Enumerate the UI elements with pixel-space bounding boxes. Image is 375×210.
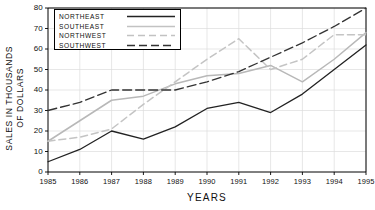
chart-legend: NORTHEAST SOUTHEAST NORTHWEST SOUTHWEST bbox=[54, 9, 181, 50]
x-axis-label: YEARS bbox=[48, 192, 366, 203]
y-axis-label-line-2: OF DOLLARS bbox=[15, 68, 26, 128]
legend-label-southeast: SOUTHEAST bbox=[59, 23, 125, 30]
legend-item-southeast: SOUTHEAST bbox=[59, 22, 176, 31]
legend-item-southwest: SOUTHWEST bbox=[59, 41, 176, 50]
y-axis-label-line-1: SALES IN THOUSANDS bbox=[4, 46, 15, 151]
x-tick-label: 1989 bbox=[160, 177, 190, 186]
legend-item-northwest: NORTHWEST bbox=[59, 31, 176, 40]
x-tick-label: 1986 bbox=[65, 177, 95, 186]
line-chart: SALES IN THOUSANDS OF DOLLARS 0102030405… bbox=[0, 0, 375, 210]
y-tick-label: 0 bbox=[21, 167, 43, 176]
x-tick-label: 1991 bbox=[224, 177, 254, 186]
x-tick-label: 1988 bbox=[128, 177, 158, 186]
legend-swatch-northeast bbox=[125, 12, 176, 21]
legend-label-southwest: SOUTHWEST bbox=[59, 42, 125, 49]
y-tick-label: 20 bbox=[21, 126, 43, 135]
legend-swatch-northwest bbox=[125, 31, 176, 40]
legend-swatch-southwest bbox=[125, 41, 176, 50]
legend-label-northwest: NORTHWEST bbox=[59, 32, 125, 39]
y-tick-label: 60 bbox=[21, 44, 43, 53]
x-tick-label: 1995 bbox=[351, 177, 375, 186]
y-tick-label: 30 bbox=[21, 106, 43, 115]
y-tick-label: 40 bbox=[21, 85, 43, 94]
legend-label-northeast: NORTHEAST bbox=[59, 13, 125, 20]
x-tick-label: 1992 bbox=[256, 177, 286, 186]
legend-item-northeast: NORTHEAST bbox=[59, 12, 176, 21]
x-tick-label: 1993 bbox=[287, 177, 317, 186]
y-tick-label: 80 bbox=[21, 3, 43, 12]
y-tick-label: 10 bbox=[21, 147, 43, 156]
y-tick-label: 70 bbox=[21, 24, 43, 33]
x-tick-label: 1990 bbox=[192, 177, 222, 186]
legend-swatch-southeast bbox=[125, 22, 176, 31]
x-tick-label: 1987 bbox=[97, 177, 127, 186]
x-tick-label: 1985 bbox=[33, 177, 63, 186]
y-tick-label: 50 bbox=[21, 65, 43, 74]
x-tick-label: 1994 bbox=[319, 177, 349, 186]
